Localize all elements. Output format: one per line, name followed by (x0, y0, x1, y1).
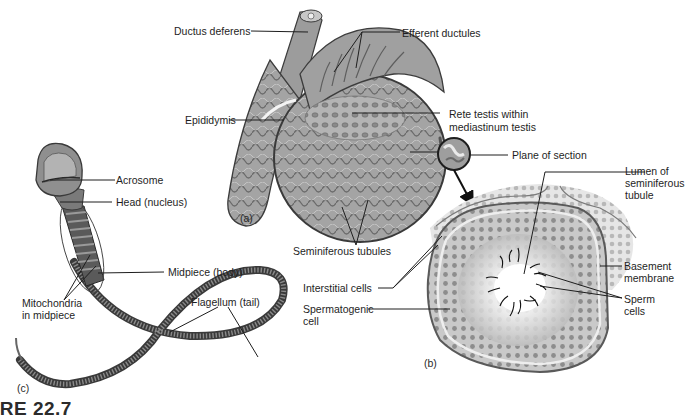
label-basement-line2: membrane (624, 272, 674, 284)
label-rete-testis-line2: mediastinum testis (449, 121, 536, 133)
label-flagellum: Flagellum (tail) (191, 296, 260, 308)
label-plane-of-section: Plane of section (512, 149, 587, 161)
label-acrosome: Acrosome (116, 174, 163, 186)
anatomy-figure: Ductus deferens Efferent ductules Epidid… (0, 0, 695, 415)
label-head-nucleus: Head (nucleus) (116, 196, 187, 208)
label-sperm-cells-line2: cells (624, 305, 645, 317)
label-efferent-ductules: Efferent ductules (402, 27, 481, 39)
panel-label-a: (a) (240, 212, 253, 224)
label-spermatogenic-line1: Spermatogenic (303, 303, 374, 315)
label-basement-line1: Basement (624, 260, 671, 272)
label-epididymis: Epididymis (185, 114, 236, 126)
label-lumen-line3: tubule (625, 189, 654, 201)
label-lumen-line2: seminiferous (625, 177, 685, 189)
tubule-cross-section-illustration (428, 184, 636, 372)
panel-label-c: (c) (17, 382, 29, 394)
label-rete-testis-line1: Rete testis within (449, 108, 528, 120)
label-ductus-deferens: Ductus deferens (174, 25, 250, 37)
figure-caption: IRE 22.7 (0, 398, 72, 415)
testis-illustration (228, 10, 446, 242)
label-sperm-cells-line1: Sperm (624, 293, 655, 305)
illustration-canvas (0, 0, 695, 415)
label-mitochondria-line2: in midpiece (22, 309, 75, 321)
label-interstitial-cells: Interstitial cells (303, 282, 372, 294)
label-lumen-line1: Lumen of (625, 165, 669, 177)
panel-label-b: (b) (424, 357, 437, 369)
label-midpiece: Midpiece (body) (168, 266, 243, 278)
label-seminiferous-tubules: Seminiferous tubules (293, 245, 391, 257)
label-mitochondria-line1: Mitochondria (22, 297, 82, 309)
label-spermatogenic-line2: cell (303, 315, 319, 327)
